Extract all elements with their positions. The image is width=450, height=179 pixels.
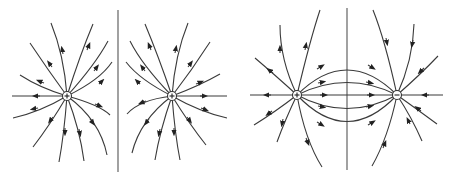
field-lines-right-charge bbox=[126, 23, 227, 160]
positive-charge-right bbox=[168, 92, 177, 101]
negative-charge-dipole bbox=[393, 91, 402, 100]
field-lines-left-charge bbox=[12, 23, 112, 162]
field-lines-svg bbox=[0, 0, 450, 179]
positive-charge-left bbox=[63, 92, 72, 101]
panel-like-charges bbox=[12, 10, 227, 172]
field-lines-figure bbox=[0, 0, 450, 179]
panel-dipole bbox=[250, 8, 443, 170]
positive-charge-dipole bbox=[293, 91, 302, 100]
